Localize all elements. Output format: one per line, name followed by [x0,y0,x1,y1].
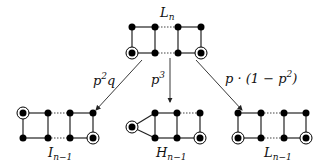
graph-top: Ln [126,5,207,59]
graph-left: In−1 [17,107,99,162]
label-right-graph: Ln−1 [263,145,292,162]
graph-right: Ln−1 [232,110,312,163]
label-arrow-middle: p3 [151,70,165,87]
arrow-middle: p3 [151,58,170,102]
arrow-left: p2q [93,60,142,110]
label-middle-graph: Hn−1 [155,145,186,162]
label-arrow-right: p · (1 − p2) [225,69,297,86]
transition-diagram: Ln p2q p3 p · (1 − p2) In−1 [0,0,328,166]
label-top-graph: Ln [159,5,175,22]
arrow-right: p · (1 − p2) [196,60,297,110]
label-left-graph: In−1 [47,145,72,162]
graph-middle: Hn−1 [126,110,206,163]
label-arrow-left: p2q [93,71,115,88]
